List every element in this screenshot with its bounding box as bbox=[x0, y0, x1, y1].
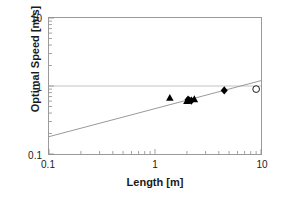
plot-area bbox=[48, 17, 262, 155]
y-axis-title: Optimal Speed [m/s] bbox=[29, 0, 41, 128]
x-tick-label-0.1: 0.1 bbox=[33, 159, 63, 170]
chart-figure: 10 1 0.1 0.1 1 10 Length [m] Optimal Spe… bbox=[0, 0, 281, 198]
x-tick-label-1: 1 bbox=[140, 159, 170, 170]
trend-line bbox=[49, 81, 261, 137]
y-axis-title-wrapper: Optimal Speed [m/s] bbox=[14, 17, 28, 155]
x-axis-title: Length [m] bbox=[48, 176, 262, 188]
x-tick-label-10: 10 bbox=[247, 159, 277, 170]
plot-canvas bbox=[49, 18, 261, 154]
